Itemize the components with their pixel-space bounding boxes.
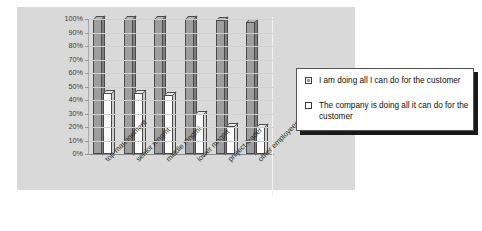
y-axis-tick-label: 10% (69, 137, 83, 144)
y-axis-tick-label: 0% (73, 150, 83, 157)
y-axis-tick-label: 50% (69, 83, 83, 90)
y-axis-tick-label: 100% (65, 15, 83, 22)
gridline (89, 100, 273, 101)
bar-face (103, 93, 112, 154)
gridline (89, 114, 273, 115)
y-axis-tick-label: 70% (69, 56, 83, 63)
bar (164, 95, 173, 154)
legend-item-label: The company is doing all it can do for t… (319, 101, 469, 122)
gridline (89, 60, 273, 61)
legend-item[interactable]: I am doing all I can do for the customer (305, 76, 461, 87)
y-axis-tick-mark (85, 154, 89, 155)
bar (103, 93, 112, 154)
filled-gray-swatch-icon (305, 77, 312, 84)
empty-white-swatch-icon (305, 102, 312, 109)
legend-item-label: I am doing all I can do for the customer (319, 76, 461, 87)
gridline (89, 141, 273, 142)
y-axis-tick-label: 40% (69, 96, 83, 103)
legend-item[interactable]: The company is doing all it can do for t… (305, 101, 469, 122)
y-axis-tick-label: 60% (69, 69, 83, 76)
x-axis-labels: top managementsenior mngmtmiddle mngmtlo… (89, 157, 289, 197)
y-axis-tick-label: 80% (69, 42, 83, 49)
gridline (89, 19, 273, 20)
gridline (89, 127, 273, 128)
gridline (89, 33, 273, 34)
gridline (89, 73, 273, 74)
y-axis-labels: 100%90%80%70%60%50%40%30%20%10%0% (17, 7, 87, 142)
bar-face (164, 95, 173, 154)
y-axis-tick-label: 20% (69, 123, 83, 130)
y-axis-tick-label: 90% (69, 29, 83, 36)
chart-legend: I am doing all I can do for the customer… (296, 68, 474, 131)
gridline (89, 87, 273, 88)
y-axis-tick-label: 30% (69, 110, 83, 117)
gridline (89, 46, 273, 47)
